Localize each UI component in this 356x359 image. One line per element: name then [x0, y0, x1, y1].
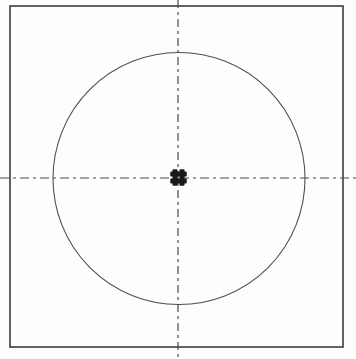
marker-horizontal-bar-bottom: [170, 179, 187, 184]
marker-horizontal-bar-top: [170, 172, 187, 177]
drawing-canvas: [0, 0, 356, 359]
technical-drawing: [0, 0, 356, 359]
